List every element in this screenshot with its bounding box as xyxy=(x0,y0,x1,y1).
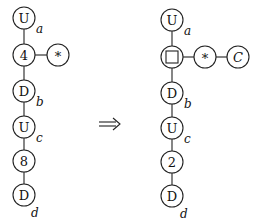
node-d-b: D b xyxy=(161,82,192,111)
node-subscript: d xyxy=(180,207,188,221)
node-u-a: U a xyxy=(13,7,43,36)
node-square xyxy=(161,46,183,68)
node-label: U xyxy=(167,13,178,28)
right-graph: U a * C D b U c 2 D xyxy=(161,9,249,221)
diagram-canvas: U a 4 * D b U c 8 D d xyxy=(0,0,258,224)
node-label: C xyxy=(233,50,243,65)
left-graph: U a 4 * D b U c 8 D d xyxy=(13,7,69,220)
node-label: D xyxy=(19,84,29,99)
node-label: * xyxy=(55,49,62,64)
node-2: 2 xyxy=(161,151,183,173)
node-d-d: D d xyxy=(13,184,39,220)
node-label: U xyxy=(167,121,178,136)
node-label: 4 xyxy=(20,48,28,63)
node-subscript: c xyxy=(36,131,43,145)
node-label: 2 xyxy=(168,155,176,170)
node-d-d: D d xyxy=(161,185,188,221)
square-icon xyxy=(166,51,178,63)
node-label: 8 xyxy=(20,154,28,169)
node-d-b: D b xyxy=(13,80,44,109)
node-u-a: U a xyxy=(161,9,191,38)
node-subscript: d xyxy=(31,206,39,220)
node-c: C xyxy=(227,46,249,68)
node-8: 8 xyxy=(13,150,35,172)
node-subscript: b xyxy=(36,95,44,109)
implies-arrow-icon xyxy=(99,118,120,130)
node-label: D xyxy=(19,188,29,203)
node-subscript: a xyxy=(36,22,43,36)
node-star: * xyxy=(47,44,69,66)
node-label: * xyxy=(202,51,209,66)
node-subscript: a xyxy=(184,24,191,38)
node-subscript: b xyxy=(184,97,192,111)
node-4: 4 xyxy=(13,44,35,66)
node-u-c: U c xyxy=(13,116,43,145)
node-label: U xyxy=(19,11,30,26)
node-label: D xyxy=(167,189,177,204)
node-star: * xyxy=(194,46,216,68)
node-u-c: U c xyxy=(161,117,191,146)
node-subscript: c xyxy=(184,132,191,146)
node-label: D xyxy=(167,86,177,101)
node-label: U xyxy=(19,120,30,135)
